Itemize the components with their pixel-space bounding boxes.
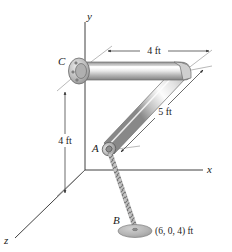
anchor-disc (118, 225, 152, 238)
axes-group (15, 22, 203, 238)
z-axis (15, 170, 85, 238)
top-dimension-label: 4 ft (147, 45, 161, 56)
point-b-coordinate-label: (6, 0, 4) ft (155, 226, 194, 237)
flange-bolt-2 (72, 71, 75, 74)
x-axis-label: x (206, 163, 212, 175)
vertical-dimension-label: 4 ft (58, 135, 72, 146)
vertical-dim-ext-bottom (57, 170, 85, 196)
point-b-label: B (113, 214, 120, 226)
z-axis-label: z (3, 234, 9, 246)
flange-bolt-3 (76, 79, 79, 82)
statics-figure: y x z 4 ft 4 ft 5 ft (0, 0, 232, 252)
anchor-eyelet (132, 228, 137, 230)
flange-c (69, 58, 90, 84)
diagonal-dimension-label: 5 ft (158, 106, 172, 117)
point-c-label: C (58, 55, 66, 67)
horizontal-pipe (78, 62, 190, 80)
vertical-dimension-group: 4 ft (52, 73, 85, 196)
point-a-label: A (91, 142, 99, 154)
horizontal-pipe-body (78, 62, 190, 80)
y-axis-label: y (86, 10, 92, 22)
anchor-disc-b (118, 225, 152, 238)
flange-hub (76, 64, 87, 79)
flange-bolt-1 (75, 62, 78, 65)
